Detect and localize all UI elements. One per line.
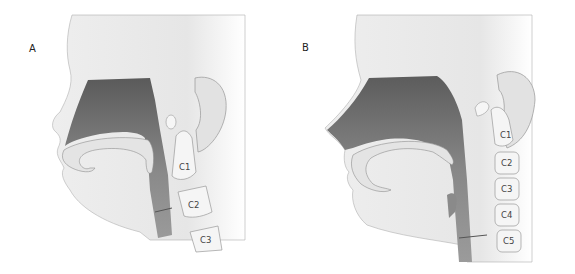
adult-head-illustration: C1 C2 C3 C4 C5 [287,0,574,274]
infant-head-illustration: C1 C2 C3 [0,0,287,274]
vertebra-label-c1: C1 [500,130,511,140]
vertebra-label-c5: C5 [503,236,514,246]
vertebra-label-c2: C2 [188,200,199,210]
vertebra-label-c2: C2 [501,158,512,168]
vertebra-label-c1: C1 [179,162,190,172]
panel-b-adult: B C1 C2 C3 C4 C5 [287,0,574,274]
vertebra-label-c4: C4 [501,210,512,220]
vertebra-label-c3: C3 [501,184,512,194]
panel-a-infant: A C1 C2 C3 [0,0,287,274]
vertebra-label-c3: C3 [200,235,211,245]
